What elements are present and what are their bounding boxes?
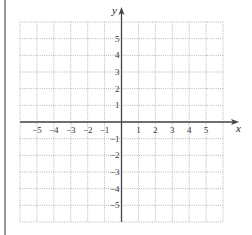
y-tick-label: −5 <box>110 200 120 210</box>
axes: x y <box>20 4 241 222</box>
x-axis-label: x <box>235 122 241 134</box>
x-tick-label: −2 <box>83 125 93 135</box>
coordinate-grid: x y −5−4−3−2−112345 54321−1−2−3−4−5 <box>0 0 252 235</box>
x-tick-label: −3 <box>66 125 76 135</box>
x-tick-label: 2 <box>153 125 158 135</box>
x-tick-label: −1 <box>100 125 110 135</box>
x-tick-labels: −5−4−3−2−112345 <box>32 125 209 135</box>
y-tick-label: −2 <box>110 150 120 160</box>
y-tick-label: −4 <box>110 184 120 194</box>
x-tick-label: 3 <box>170 125 175 135</box>
x-tick-label: 5 <box>204 125 209 135</box>
x-tick-label: 1 <box>136 125 141 135</box>
y-tick-label: −1 <box>110 134 120 144</box>
x-tick-label: −4 <box>49 125 59 135</box>
x-tick-label: −5 <box>32 125 42 135</box>
y-tick-label: −3 <box>110 167 120 177</box>
y-tick-label: 1 <box>115 100 120 110</box>
x-tick-label: 4 <box>187 125 192 135</box>
y-tick-label: 2 <box>115 84 120 94</box>
y-tick-label: 3 <box>115 67 120 77</box>
y-tick-label: 5 <box>115 34 120 44</box>
y-axis-label: y <box>111 4 117 16</box>
y-tick-label: 4 <box>115 50 120 60</box>
